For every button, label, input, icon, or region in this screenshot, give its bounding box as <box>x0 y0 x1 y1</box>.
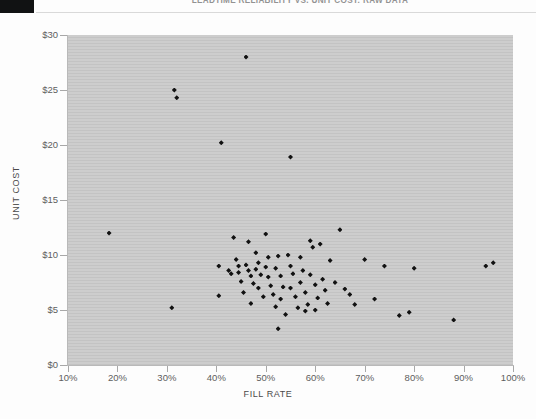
x-axis-line <box>67 365 514 366</box>
paper-texture <box>68 35 513 365</box>
y-tick <box>60 310 67 311</box>
scatter-chart: $0$5$10$15$20$25$30 10%20%30%40%50%60%70… <box>0 0 536 419</box>
y-axis-line <box>67 35 68 366</box>
y-tick <box>60 365 67 366</box>
page-canvas: LEADTIME RELIABILITY VS. UNIT COST: RAW … <box>0 0 536 419</box>
y-tick-label: $5 <box>6 304 58 315</box>
y-tick <box>60 145 67 146</box>
x-tick-label: 100% <box>483 372 536 383</box>
y-tick <box>60 200 67 201</box>
y-tick <box>60 90 67 91</box>
y-tick <box>60 35 67 36</box>
y-tick-label: $30 <box>6 29 58 40</box>
y-axis-title: UNIT COST <box>11 133 21 253</box>
plot-area <box>68 35 513 365</box>
y-tick <box>60 255 67 256</box>
x-axis-title: FILL RATE <box>0 389 536 399</box>
y-tick-label: $0 <box>6 359 58 370</box>
y-tick-label: $25 <box>6 84 58 95</box>
